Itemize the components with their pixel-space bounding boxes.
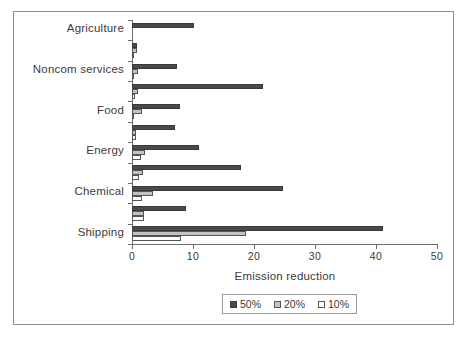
legend-item-50[interactable]: 50%: [230, 298, 261, 310]
bar-group: [132, 183, 437, 203]
category-label: Shipping: [78, 226, 124, 238]
category-label: Noncom services: [33, 63, 124, 75]
dark-swatch-icon: [230, 301, 237, 308]
bar-10pct: [132, 114, 134, 119]
category-label: Agriculture: [67, 22, 124, 34]
legend-label-20: 20%: [284, 298, 305, 310]
bar-10pct: [132, 135, 136, 140]
category-label: Food: [97, 104, 124, 116]
bar-50pct: [132, 186, 283, 191]
bar-10pct: [132, 236, 181, 241]
x-axis-tick: [315, 245, 316, 249]
bar-10pct: [132, 216, 144, 221]
bar-group: [132, 142, 437, 162]
x-axis-tick-label: 20: [239, 250, 269, 262]
x-axis-tick-label: 0: [117, 250, 147, 262]
bar-10pct: [132, 53, 134, 58]
bar-50pct: [132, 84, 263, 89]
bar-group: [132, 203, 437, 223]
bar-10pct: [132, 74, 134, 79]
x-axis-tick: [437, 245, 438, 249]
white-swatch-icon: [318, 301, 325, 308]
bar-group: [132, 20, 437, 40]
bar-group: [132, 61, 437, 81]
bar-10pct: [132, 196, 142, 201]
chart-legend: 50% 20% 10%: [222, 294, 357, 314]
bar-50pct: [132, 64, 177, 69]
x-axis-tick: [254, 245, 255, 249]
x-axis-tick-label: 10: [178, 250, 208, 262]
x-axis-tick-label: 30: [300, 250, 330, 262]
x-axis-title: Emission reduction: [132, 270, 438, 282]
bar-50pct: [132, 125, 175, 130]
bar-group: [132, 101, 437, 121]
legend-label-50: 50%: [240, 298, 261, 310]
x-axis-tick: [193, 245, 194, 249]
category-label: Energy: [86, 144, 124, 156]
legend-item-20[interactable]: 20%: [274, 298, 305, 310]
chart-figure: AgricultureNoncom servicesFoodEnergyChem…: [0, 0, 469, 340]
gray-swatch-icon: [274, 301, 281, 308]
bar-50pct: [132, 23, 194, 28]
x-axis-line: [132, 244, 438, 245]
bar-group: [132, 122, 437, 142]
x-axis-tick: [132, 245, 133, 249]
bar-group: [132, 224, 437, 244]
category-axis-labels: AgricultureNoncom servicesFoodEnergyChem…: [0, 0, 128, 340]
bar-group: [132, 40, 437, 60]
bar-50pct: [132, 165, 241, 170]
x-axis-tick-label: 50: [422, 250, 452, 262]
legend-item-10[interactable]: 10%: [318, 298, 349, 310]
y-axis-tick: [128, 20, 132, 21]
bar-group: [132, 163, 437, 183]
x-axis-tick-label: 40: [361, 250, 391, 262]
bar-group: [132, 81, 437, 101]
bar-10pct: [132, 94, 135, 99]
x-axis-tick: [376, 245, 377, 249]
plot-area: [132, 20, 437, 244]
legend-label-10: 10%: [328, 298, 349, 310]
bar-10pct: [132, 175, 139, 180]
bar-10pct: [132, 155, 141, 160]
category-label: Chemical: [74, 185, 124, 197]
